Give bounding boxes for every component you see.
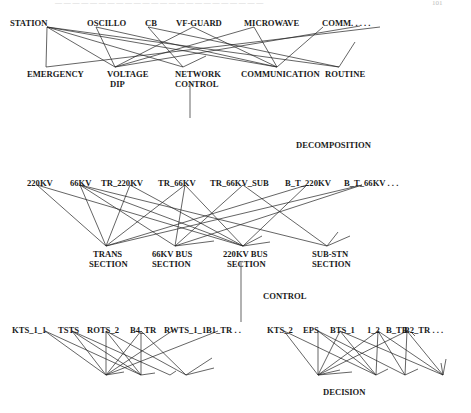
node-microwave: MICROWAVE — [244, 18, 299, 28]
node-sub-stn-section-line2: SECTION — [312, 259, 351, 269]
level2-edges — [37, 185, 362, 246]
node-66kv: 66KV — [70, 178, 92, 188]
node-66kv-bus-section: 66KV BUS — [152, 249, 192, 259]
node-station: STATION — [10, 18, 48, 28]
stage-label-decomposition: DECOMPOSITION — [296, 140, 372, 150]
node-bts-1: BTS_1 — [330, 325, 355, 335]
stage-label-control: CONTROL — [263, 291, 307, 301]
node-1-2: 1_2 — [367, 325, 380, 335]
node-sub-stn-section: SUB-STN — [312, 249, 349, 259]
node-220kv-bus-section: 220KV BUS — [223, 249, 268, 259]
node-comm: COMM. . . . . — [322, 18, 370, 28]
node-trans-section: TRANS — [93, 249, 122, 259]
level1-top-labels: STATION OSCILLO CB VF-GUARD MICROWAVE CO… — [10, 18, 370, 28]
node-220kv-bus-section-line2: SECTION — [227, 259, 266, 269]
node-kts-2: KTS_2 — [267, 325, 293, 335]
node-voltage-dip-line2: DIP — [110, 79, 125, 89]
level3-right-edges — [284, 331, 446, 375]
node-66kv-bus-section-line2: SECTION — [152, 259, 191, 269]
node-emergency: EMERGENCY — [27, 69, 85, 79]
level3-left-labels: KTS_1_1 TSTS ROTS_2 B4_TR RWTS_1_1 B1_TR… — [12, 325, 241, 335]
node-tr-66kv-sub: TR_66KV_SUB — [210, 178, 269, 188]
hierarchical-decision-diagram: — — — — — — — — — — — — — — — — — — — — … — [0, 0, 471, 413]
node-rwts-1-1: RWTS_1_1 — [164, 325, 206, 335]
node-220kv: 220KV — [27, 178, 54, 188]
level2-top-labels: 220KV 66KV TR_220KV TR_66KV TR_66KV_SUB … — [27, 178, 398, 188]
node-eps: EPS — [303, 325, 319, 335]
node-voltage-dip: VOLTAGE — [107, 69, 149, 79]
node-network-control-line2: CONTROL — [175, 79, 219, 89]
node-b4-tr: B4_TR — [130, 325, 157, 335]
node-b1-tr: B1_TR . . — [206, 325, 241, 335]
node-vf-guard: VF-GUARD — [176, 18, 222, 28]
node-tr-220kv: TR_220KV — [101, 178, 144, 188]
level1-edges — [46, 26, 380, 67]
node-tsts: TSTS — [58, 325, 79, 335]
node-b-t-220kv: B_T_220KV — [285, 178, 332, 188]
level3-right-labels: KTS_2 EPS BTS_1 1_2 B_TB B2_TR . . . — [267, 325, 443, 335]
node-routine: ROUTINE — [325, 69, 365, 79]
node-b2-tr: B2_TR . . . — [404, 325, 443, 335]
node-tr-66kv: TR_66KV — [158, 178, 197, 188]
node-trans-section-line2: SECTION — [89, 259, 128, 269]
node-cb: CB — [145, 18, 157, 28]
level2-bottom-labels: TRANS SECTION 66KV BUS SECTION 220KV BUS… — [89, 249, 351, 269]
page-header: — — — — — — — — — — — — — — — — — — — — … — [54, 0, 264, 7]
node-b-t-66kv: B_T_66KV . . . — [344, 178, 398, 188]
level1-bottom-labels: EMERGENCY VOLTAGE DIP NETWORK CONTROL CO… — [27, 69, 365, 89]
node-oscillo: OSCILLO — [87, 18, 126, 28]
node-kts-1-1: KTS_1_1 — [12, 325, 46, 335]
node-rots-2: ROTS_2 — [87, 325, 119, 335]
level3-left-edges — [45, 331, 218, 375]
page-number: 101 — [432, 0, 443, 7]
node-network-control: NETWORK — [175, 69, 221, 79]
stage-label-decision: DECISION — [323, 387, 366, 397]
node-communication: COMMUNICATION — [241, 69, 320, 79]
